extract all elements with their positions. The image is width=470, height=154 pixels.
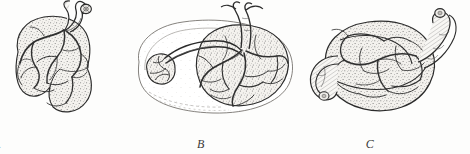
placenta-body-c: [325, 21, 434, 111]
placenta-illustration-b: [125, 0, 305, 132]
accessory-lobe-b: [147, 54, 175, 84]
panel-label-c: C: [285, 138, 455, 150]
umbilical-cord-loop-c: [310, 56, 338, 100]
figure-panel-b: B: [125, 0, 305, 154]
figure-panel-c: C: [300, 0, 470, 154]
figure-plate: A: [0, 0, 470, 154]
placenta-illustration-c: [300, 0, 470, 132]
panel-label-a: A: [0, 138, 72, 150]
panel-label-b: B: [111, 138, 291, 150]
